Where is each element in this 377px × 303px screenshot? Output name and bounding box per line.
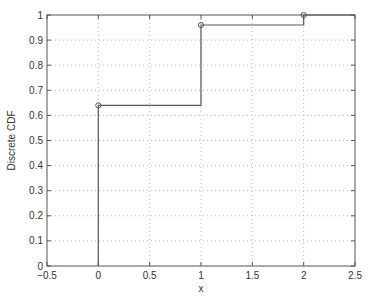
y-axis-label: Discrete CDF xyxy=(6,110,17,170)
x-axis-label: x xyxy=(199,283,204,294)
y-tick-label: 0.1 xyxy=(29,235,43,246)
y-tick-labels: 00.10.20.30.40.50.60.70.80.91 xyxy=(29,10,43,272)
y-tick-label: 0.9 xyxy=(29,35,43,46)
y-tick-label: 0.3 xyxy=(29,185,43,196)
y-tick-label: 0.6 xyxy=(29,110,43,121)
y-tick-label: 0.7 xyxy=(29,85,43,96)
x-tick-label: 0 xyxy=(96,270,102,281)
cdf-step-line xyxy=(98,15,355,266)
y-tick-label: 0.2 xyxy=(29,210,43,221)
x-tick-label: 1 xyxy=(198,270,204,281)
y-tick-label: 0.8 xyxy=(29,60,43,71)
y-tick-label: 1 xyxy=(37,10,43,21)
cdf-chart: −0.500.511.522.5 00.10.20.30.40.50.60.70… xyxy=(0,0,377,303)
cdf-step-series xyxy=(96,12,355,266)
x-tick-label: 2 xyxy=(301,270,307,281)
y-tick-label: 0.4 xyxy=(29,160,43,171)
x-tick-label: −0.5 xyxy=(37,270,57,281)
x-tick-label: 1.5 xyxy=(245,270,259,281)
y-tick-label: 0 xyxy=(37,261,43,272)
x-tick-labels: −0.500.511.522.5 xyxy=(37,270,362,281)
x-tick-label: 0.5 xyxy=(143,270,157,281)
y-tick-label: 0.5 xyxy=(29,135,43,146)
x-tick-label: 2.5 xyxy=(348,270,362,281)
